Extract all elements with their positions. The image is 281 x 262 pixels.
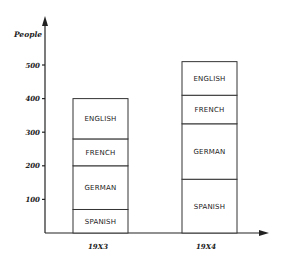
segment-label: ENGLISH xyxy=(84,115,116,123)
segment-label: FRENCH xyxy=(86,149,116,157)
segment-label: ENGLISH xyxy=(193,75,225,83)
y-tick-label: 100 xyxy=(25,195,40,204)
stacked-bar-chart: People 100200300400500 SPANISHGERMANFREN… xyxy=(0,0,281,262)
y-tick-label: 300 xyxy=(25,128,40,137)
bar-19x4: SPANISHGERMANFRENCHENGLISH xyxy=(182,62,237,233)
x-axis-arrow-icon xyxy=(259,230,269,236)
bar-19x3: SPANISHGERMANFRENCHENGLISH xyxy=(73,99,128,233)
y-axis-arrow-icon xyxy=(42,16,48,26)
y-axis: People 100200300400500 xyxy=(13,16,48,233)
segment-label: FRENCH xyxy=(195,106,225,114)
segment-label: GERMAN xyxy=(85,184,117,192)
x-tick-label: 19X3 xyxy=(88,242,108,251)
y-axis-label: People xyxy=(13,30,42,39)
y-tick-label: 500 xyxy=(25,61,40,70)
y-tick-label: 400 xyxy=(25,94,40,103)
segment-label: SPANISH xyxy=(85,218,116,226)
x-tick-label: 19X4 xyxy=(196,242,216,251)
segment-label: SPANISH xyxy=(194,203,225,211)
segment-label: GERMAN xyxy=(194,148,226,156)
y-tick-label: 200 xyxy=(24,161,40,170)
